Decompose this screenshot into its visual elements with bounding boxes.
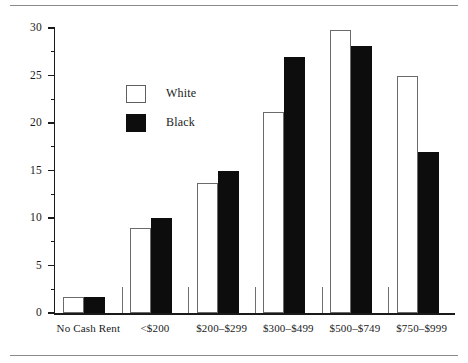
bar-white bbox=[263, 112, 284, 313]
y-axis-tick-major bbox=[48, 75, 55, 77]
x-axis-line bbox=[54, 313, 455, 315]
bar-group bbox=[388, 28, 455, 313]
bar-white bbox=[130, 228, 151, 313]
horizontal-rule-top bbox=[10, 5, 458, 6]
category-separator-tick bbox=[388, 287, 389, 313]
bar-group bbox=[322, 28, 389, 313]
y-axis-labels: 051015202530 bbox=[0, 0, 48, 363]
bar-group bbox=[255, 28, 322, 313]
y-axis-tick-label: 10 bbox=[2, 212, 42, 224]
x-axis-category-label: $500–$749 bbox=[322, 322, 389, 334]
x-axis-category-label: $200–$299 bbox=[188, 322, 255, 334]
bar-white bbox=[397, 76, 418, 314]
plot-area bbox=[55, 28, 455, 313]
x-axis-category-label: <$200 bbox=[122, 322, 189, 334]
y-axis-tick-major bbox=[48, 312, 55, 314]
y-axis-tick-major bbox=[48, 265, 55, 267]
bar-white bbox=[330, 30, 351, 313]
category-separator-tick bbox=[322, 287, 323, 313]
legend-label: Black bbox=[166, 115, 195, 130]
bar-black bbox=[218, 171, 239, 314]
bar-black bbox=[418, 152, 439, 314]
horizontal-rule-bottom bbox=[10, 355, 458, 356]
y-axis-tick-major bbox=[48, 122, 55, 124]
x-axis-category-label: No Cash Rent bbox=[55, 322, 122, 334]
y-axis-tick-label: 0 bbox=[2, 307, 42, 319]
y-axis-tick-label: 5 bbox=[2, 260, 42, 272]
bar-black bbox=[84, 297, 105, 313]
bar-black bbox=[284, 57, 305, 314]
bar-group bbox=[188, 28, 255, 313]
bar-group bbox=[122, 28, 189, 313]
legend-item: White bbox=[126, 84, 196, 103]
legend-swatch-white bbox=[126, 85, 146, 103]
y-axis-tick-label: 15 bbox=[2, 165, 42, 177]
y-axis-tick-major bbox=[48, 27, 55, 29]
y-axis-tick-major bbox=[48, 170, 55, 172]
bar-white bbox=[63, 297, 84, 313]
x-axis-category-label: $300–$499 bbox=[255, 322, 322, 334]
category-separator-tick bbox=[255, 287, 256, 313]
category-separator-tick bbox=[122, 287, 123, 313]
legend: WhiteBlack bbox=[126, 84, 196, 142]
x-axis-category-label: $750–$999 bbox=[388, 322, 455, 334]
bar-chart-figure: 051015202530 Percentage No Cash Rent<$20… bbox=[0, 0, 468, 363]
category-separator-tick bbox=[188, 287, 189, 313]
y-axis-tick-label: 30 bbox=[2, 22, 42, 34]
legend-label: White bbox=[166, 86, 196, 101]
legend-item: Black bbox=[126, 113, 196, 132]
legend-swatch-black bbox=[126, 114, 146, 132]
bar-group bbox=[55, 28, 122, 313]
bar-black bbox=[351, 46, 372, 313]
y-axis-tick-label: 25 bbox=[2, 70, 42, 82]
bar-white bbox=[197, 183, 218, 313]
y-axis-tick-major bbox=[48, 217, 55, 219]
y-axis-tick-label: 20 bbox=[2, 117, 42, 129]
bar-black bbox=[151, 218, 172, 313]
